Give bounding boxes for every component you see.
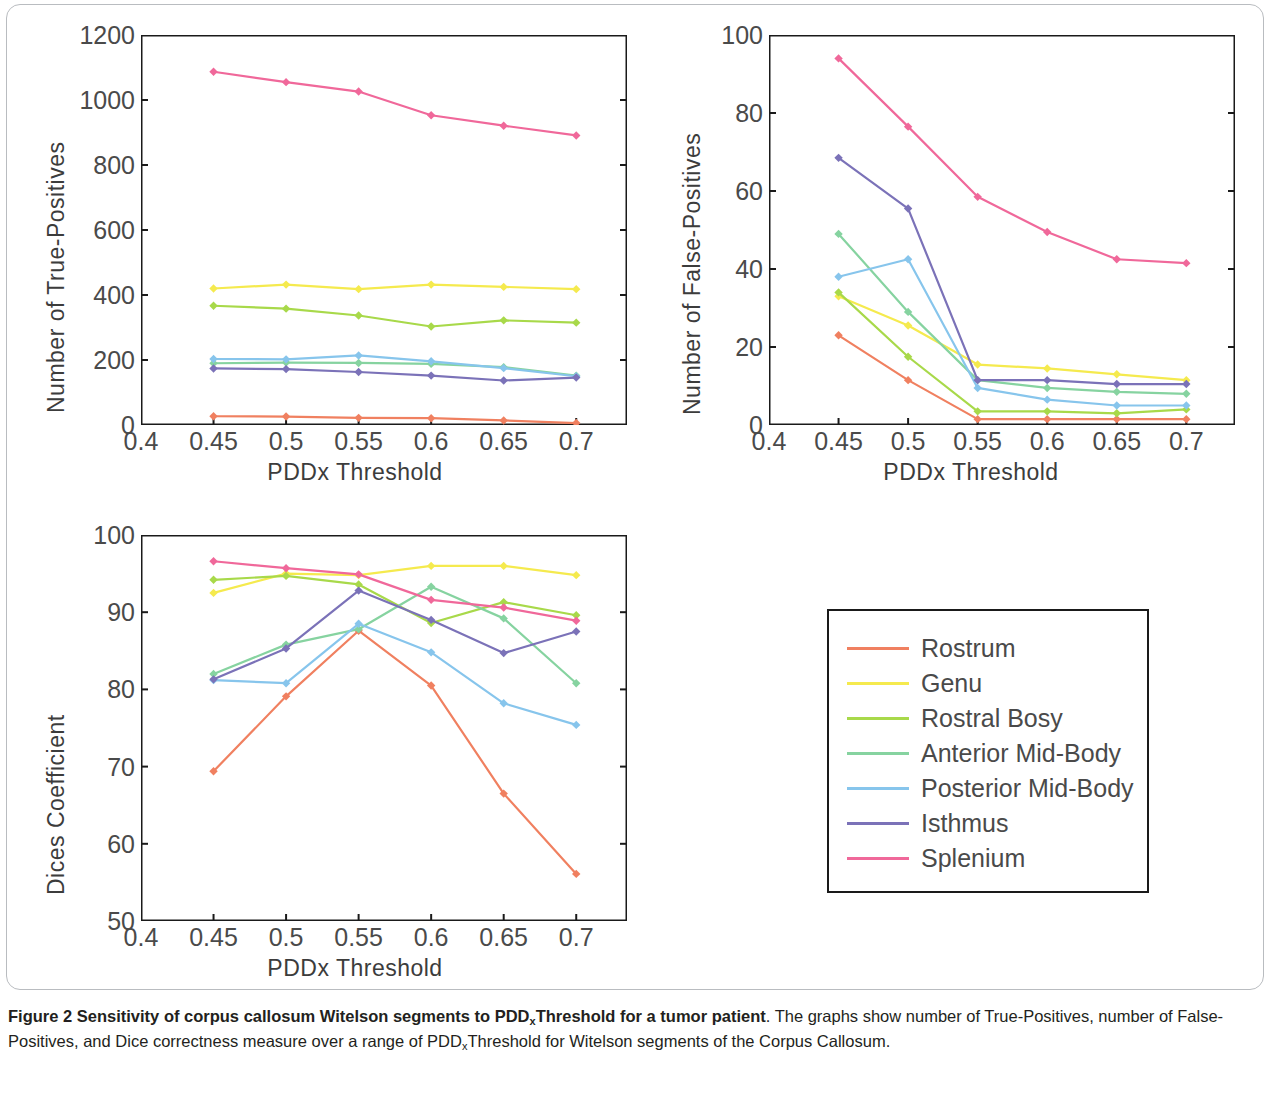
series-marker bbox=[1043, 415, 1051, 423]
series-line bbox=[214, 587, 577, 684]
series-marker bbox=[1113, 370, 1121, 378]
y-tick-label: 80 bbox=[735, 99, 763, 128]
series-marker bbox=[499, 416, 507, 424]
series-marker bbox=[427, 414, 435, 422]
series-marker bbox=[209, 557, 217, 565]
legend-item-splenium[interactable]: Splenium bbox=[847, 841, 1025, 875]
series-marker bbox=[572, 318, 580, 326]
legend-color-swatch bbox=[847, 752, 909, 755]
y-tick-label: 1200 bbox=[79, 21, 135, 50]
series-marker bbox=[1113, 409, 1121, 417]
series-marker bbox=[209, 355, 217, 363]
series-marker bbox=[209, 364, 217, 372]
series-marker bbox=[499, 121, 507, 129]
chart-true-positives: Number of True-Positives PDDx Threshold … bbox=[15, 13, 655, 493]
y-tick-label: 400 bbox=[93, 281, 135, 310]
legend-item-label: Splenium bbox=[921, 846, 1025, 871]
legend-item-label: Rostrum bbox=[921, 636, 1015, 661]
series-marker bbox=[282, 304, 290, 312]
series-marker bbox=[1182, 390, 1190, 398]
legend-color-swatch bbox=[847, 647, 909, 650]
series-marker bbox=[499, 376, 507, 384]
legend-item-rostral-bosy[interactable]: Rostral Bosy bbox=[847, 701, 1063, 735]
series-marker bbox=[354, 570, 362, 578]
legend-item-genu[interactable]: Genu bbox=[847, 666, 982, 700]
series-marker bbox=[572, 616, 580, 624]
series-marker bbox=[572, 131, 580, 139]
y-tick-label: 200 bbox=[93, 346, 135, 375]
series-marker bbox=[1182, 415, 1190, 423]
legend-item-label: Posterior Mid-Body bbox=[921, 776, 1134, 801]
series-marker bbox=[427, 371, 435, 379]
y-axis-label-dices-coefficient: Dices Coefficient bbox=[43, 714, 70, 895]
y-tick-label: 80 bbox=[107, 675, 135, 704]
x-tick-label: 0.5 bbox=[891, 427, 926, 456]
chart-false-positives: Number of False-Positives PDDx Threshold… bbox=[661, 13, 1261, 493]
legend-item-label: Genu bbox=[921, 671, 982, 696]
series-marker bbox=[1113, 255, 1121, 263]
legend-color-swatch bbox=[847, 787, 909, 790]
series-marker bbox=[572, 571, 580, 579]
x-tick-label: 0.55 bbox=[953, 427, 1002, 456]
series-marker bbox=[209, 675, 217, 683]
series-line bbox=[214, 72, 577, 136]
caption-body-subscript: x bbox=[462, 1040, 468, 1052]
x-axis-label-false-positives: PDDx Threshold bbox=[741, 459, 1201, 486]
legend-item-posterior-mid-body[interactable]: Posterior Mid-Body bbox=[847, 771, 1134, 805]
series-marker bbox=[973, 360, 981, 368]
series-marker bbox=[282, 412, 290, 420]
legend-item-anterior-mid-body[interactable]: Anterior Mid-Body bbox=[847, 736, 1121, 770]
series-marker bbox=[1043, 407, 1051, 415]
legend-item-isthmus[interactable]: Isthmus bbox=[847, 806, 1009, 840]
x-tick-label: 0.4 bbox=[752, 427, 787, 456]
series-marker bbox=[1182, 259, 1190, 267]
x-tick-label: 0.55 bbox=[334, 923, 383, 952]
x-tick-label: 0.7 bbox=[1169, 427, 1204, 456]
x-tick-label: 0.5 bbox=[269, 923, 304, 952]
series-line bbox=[214, 631, 577, 874]
legend-color-swatch bbox=[847, 857, 909, 860]
series-marker bbox=[1043, 228, 1051, 236]
legend-color-swatch bbox=[847, 682, 909, 685]
series-marker bbox=[499, 316, 507, 324]
series-marker bbox=[499, 283, 507, 291]
y-tick-label: 70 bbox=[107, 752, 135, 781]
y-tick-label: 800 bbox=[93, 151, 135, 180]
x-tick-label: 0.4 bbox=[124, 427, 159, 456]
chart-dices-coefficient: Dices Coefficient PDDx Threshold 5060708… bbox=[15, 513, 655, 991]
x-tick-label: 0.5 bbox=[269, 427, 304, 456]
series-marker bbox=[427, 322, 435, 330]
plot-area-true-positives bbox=[141, 35, 627, 425]
series-marker bbox=[209, 284, 217, 292]
series-line bbox=[839, 158, 1187, 384]
series-marker bbox=[1043, 376, 1051, 384]
x-tick-label: 0.6 bbox=[414, 923, 449, 952]
series-marker bbox=[427, 562, 435, 570]
x-tick-label: 0.4 bbox=[124, 923, 159, 952]
series-marker bbox=[282, 365, 290, 373]
series-line bbox=[214, 624, 577, 725]
series-marker bbox=[499, 562, 507, 570]
y-ticks-false-positives: 020406080100 bbox=[701, 13, 763, 423]
y-tick-label: 600 bbox=[93, 216, 135, 245]
series-marker bbox=[499, 603, 507, 611]
series-line bbox=[214, 416, 577, 423]
series-marker bbox=[354, 285, 362, 293]
series-marker bbox=[834, 273, 842, 281]
legend-item-label: Isthmus bbox=[921, 811, 1009, 836]
y-axis-label-true-positives: Number of True-Positives bbox=[43, 142, 70, 413]
legend-item-rostrum[interactable]: Rostrum bbox=[847, 631, 1015, 665]
caption-title: Figure 2 Sensitivity of corpus callosum … bbox=[8, 1007, 766, 1025]
x-tick-label: 0.6 bbox=[1030, 427, 1065, 456]
x-tick-label: 0.65 bbox=[1092, 427, 1141, 456]
series-marker bbox=[282, 564, 290, 572]
series-marker bbox=[209, 412, 217, 420]
series-marker bbox=[1043, 364, 1051, 372]
x-ticks-dices-coefficient: 0.40.450.50.550.60.650.7 bbox=[15, 923, 655, 957]
series-marker bbox=[572, 721, 580, 729]
y-tick-label: 90 bbox=[107, 598, 135, 627]
x-tick-label: 0.7 bbox=[559, 923, 594, 952]
series-marker bbox=[973, 384, 981, 392]
plot-area-dices-coefficient bbox=[141, 535, 627, 921]
series-marker bbox=[209, 302, 217, 310]
